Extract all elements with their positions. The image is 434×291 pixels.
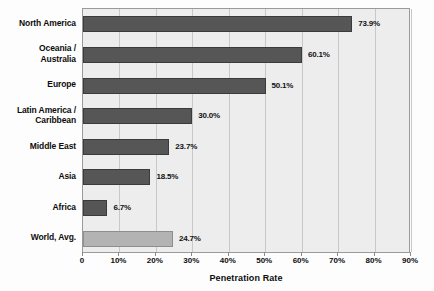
bar-value-label: 60.1%	[308, 50, 330, 59]
bar-row: 50.1%	[83, 70, 409, 101]
category-label-line: World, Avg.	[0, 232, 76, 243]
category-label-line: Europe	[0, 79, 76, 90]
category-label: Africa	[0, 202, 76, 213]
x-tick-label: 0	[80, 256, 84, 265]
bar	[83, 16, 352, 32]
category-label-line: Australia	[0, 54, 76, 65]
x-axis-title: Penetration Rate	[82, 273, 410, 283]
category-label-line: Middle East	[0, 141, 76, 152]
x-tick-label: 40%	[220, 256, 236, 265]
x-tick-mark	[82, 252, 83, 256]
bar-row: 18.5%	[83, 162, 409, 193]
x-tick-label: 90%	[402, 256, 418, 265]
category-label-line: Africa	[0, 202, 76, 213]
x-tick-mark	[301, 252, 302, 256]
x-tick-mark	[264, 252, 265, 256]
x-tick-label: 20%	[147, 256, 163, 265]
bar-value-label: 24.7%	[179, 234, 201, 243]
bar-row: 60.1%	[83, 40, 409, 71]
bar-value-label: 18.5%	[156, 172, 178, 181]
x-tick-mark	[410, 252, 411, 256]
bar-value-label: 23.7%	[175, 142, 197, 151]
category-axis-labels: North AmericaOceania /AustraliaEuropeLat…	[0, 8, 76, 253]
x-tick-mark	[337, 252, 338, 256]
category-label-line: Caribbean	[0, 115, 76, 126]
bar-row: 6.7%	[83, 193, 409, 224]
category-label: World, Avg.	[0, 232, 76, 243]
x-tick-label: 70%	[329, 256, 345, 265]
bar-value-label: 6.7%	[113, 203, 130, 212]
gridline	[411, 9, 412, 252]
bar	[83, 47, 302, 63]
category-label-line: Asia	[0, 171, 76, 182]
x-tick-mark	[191, 252, 192, 256]
category-label: Latin America /Caribbean	[0, 105, 76, 126]
bar-row: 30.0%	[83, 101, 409, 132]
bar-row: 73.9%	[83, 9, 409, 40]
bar	[83, 108, 192, 124]
category-label: Asia	[0, 171, 76, 182]
category-label-line: North America	[0, 18, 76, 29]
x-axis-tick-labels: 010%20%30%40%50%60%70%80%90%	[82, 256, 410, 270]
bar-value-label: 73.9%	[358, 19, 380, 28]
bar-value-label: 50.1%	[272, 81, 294, 90]
category-label: North America	[0, 18, 76, 29]
category-label-line: Oceania /	[0, 43, 76, 54]
bar-row: 24.7%	[83, 223, 409, 254]
bar	[83, 169, 150, 185]
x-tick-label: 30%	[183, 256, 199, 265]
category-label: Europe	[0, 79, 76, 90]
category-label: Middle East	[0, 141, 76, 152]
bar-row: 23.7%	[83, 132, 409, 163]
x-tick-mark	[228, 252, 229, 256]
category-label: Oceania /Australia	[0, 43, 76, 64]
category-label-line: Latin America /	[0, 105, 76, 116]
penetration-rate-bar-chart: 73.9%60.1%50.1%30.0%23.7%18.5%6.7%24.7% …	[0, 0, 434, 291]
bar-series: 73.9%60.1%50.1%30.0%23.7%18.5%6.7%24.7%	[83, 9, 409, 252]
bar	[83, 231, 173, 247]
x-tick-label: 10%	[110, 256, 126, 265]
bar	[83, 139, 169, 155]
x-tick-mark	[118, 252, 119, 256]
x-tick-mark	[155, 252, 156, 256]
bar	[83, 78, 266, 94]
x-tick-label: 60%	[293, 256, 309, 265]
x-tick-label: 50%	[256, 256, 272, 265]
x-tick-mark	[374, 252, 375, 256]
x-tick-label: 80%	[366, 256, 382, 265]
bar	[83, 200, 107, 216]
plot-area: 73.9%60.1%50.1%30.0%23.7%18.5%6.7%24.7%	[82, 8, 410, 253]
bar-value-label: 30.0%	[198, 111, 220, 120]
